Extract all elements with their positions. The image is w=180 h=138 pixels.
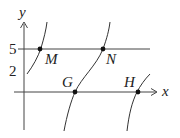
y-axis-label: y [17,4,26,20]
label-N: N [105,51,117,67]
label-G: G [62,74,73,90]
tick-label-5: 5 [9,41,17,57]
graph: y x 5 2 M N G H [0,0,180,138]
label-M: M [44,51,59,67]
tick-label-2: 2 [9,63,17,79]
point-M [38,47,43,52]
label-H: H [123,74,136,90]
curve-1 [27,22,47,74]
point-H [136,90,141,95]
x-axis-label: x [161,83,169,99]
point-N [101,47,106,52]
point-G [73,90,78,95]
